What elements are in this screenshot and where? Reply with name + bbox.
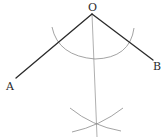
lower-arc-right	[72, 108, 123, 132]
lower-arc-left	[70, 108, 121, 131]
label-b: B	[153, 60, 161, 73]
angle-bisector-diagram: O A B	[0, 0, 168, 137]
label-a: A	[5, 80, 15, 93]
segment-oa	[16, 14, 92, 78]
segment-ob	[92, 14, 153, 60]
label-o: O	[88, 1, 97, 14]
bisector-line	[92, 14, 97, 137]
